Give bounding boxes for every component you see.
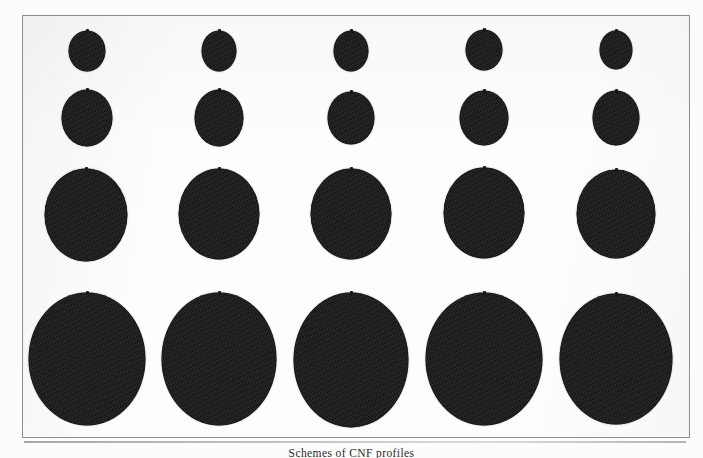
cnf-profile-blob — [29, 293, 145, 425]
cnf-profile-blob — [426, 293, 542, 425]
cnf-profile-blob — [466, 30, 502, 70]
caption-rule — [24, 441, 686, 443]
figure-plate-frame — [22, 15, 690, 438]
cnf-profile-blob — [162, 293, 276, 425]
cnf-profile-blob — [444, 168, 524, 258]
figure-root: Schemes of CNF profiles — [0, 0, 703, 458]
cnf-profile-blob — [593, 91, 639, 145]
cnf-profile-blob — [577, 170, 655, 258]
cnf-profile-blob — [460, 91, 508, 145]
cnf-profile-blob — [600, 31, 632, 69]
cnf-profile-blob — [294, 293, 408, 427]
cnf-profile-blob — [202, 31, 236, 71]
cnf-profile-blob — [45, 169, 127, 261]
cnf-profile-blob — [62, 90, 112, 146]
cnf-profile-blob — [69, 31, 105, 71]
cnf-profile-blob — [195, 90, 243, 146]
cnf-profile-blob — [311, 169, 391, 259]
cnf-profile-blob — [560, 294, 672, 424]
cnf-profile-blob — [334, 31, 368, 71]
figure-caption: Schemes of CNF profiles — [0, 447, 703, 458]
cnf-profile-blob — [328, 92, 374, 144]
cnf-profile-blob — [179, 169, 259, 259]
